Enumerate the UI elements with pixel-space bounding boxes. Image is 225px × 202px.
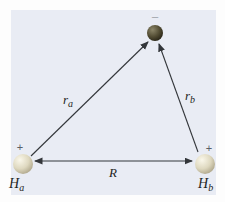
electron-minus-sign: − <box>151 10 159 25</box>
nucleus-b-plus-sign: + <box>206 142 212 154</box>
nucleus-a-plus-sign: + <box>17 141 23 153</box>
nucleus-b-sphere <box>195 154 215 174</box>
label-r-separation: R <box>108 165 117 180</box>
figure-canvas: − + + ra rb R Ha Hb <box>0 0 225 202</box>
figure-stage: − + + ra rb R Ha Hb <box>0 0 225 202</box>
electron-sphere <box>147 25 163 41</box>
nucleus-a-sphere <box>13 154 33 174</box>
